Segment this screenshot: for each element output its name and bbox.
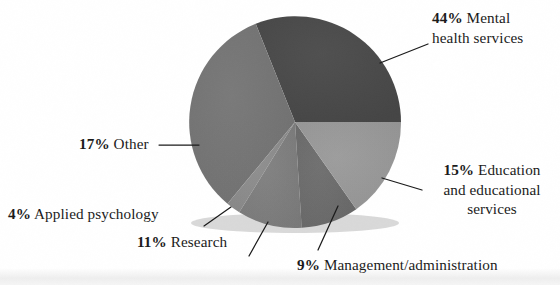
- pie-label-other: 17% Other: [79, 134, 149, 154]
- pie-label-management-text: Management/administration: [320, 256, 498, 273]
- pie-label-management-administration: 9% Management/administration: [297, 255, 498, 275]
- pie-label-other-percent: 17%: [79, 135, 110, 152]
- pie-label-research-text: Research: [167, 233, 227, 250]
- pie-label-research: 11% Research: [137, 232, 227, 252]
- pie-label-applied-text: Applied psychology: [31, 205, 159, 222]
- pie-label-education-percent: 15%: [443, 161, 474, 178]
- pie-label-applied-psychology: 4% Applied psychology: [8, 204, 159, 224]
- pie-label-education-line1: Education: [474, 161, 540, 178]
- pie-label-research-percent: 11%: [137, 233, 167, 250]
- pie-label-mental-percent: 44%: [432, 9, 463, 26]
- pie-label-education-and-educational-services: 15% Education and educational services: [424, 160, 560, 219]
- pie-chart-figure: 44% Mental health services 15% Education…: [0, 0, 560, 285]
- pie-label-education-line2: and educational: [443, 181, 540, 198]
- leader-line-mental: [380, 44, 428, 63]
- pie-label-mental-line2: health services: [432, 29, 523, 46]
- leader-line-education: [382, 178, 422, 190]
- pie-label-mental-line1: Mental: [463, 9, 511, 26]
- pie-label-other-text: Other: [110, 135, 149, 152]
- pie-label-management-percent: 9%: [297, 256, 320, 273]
- pie-label-applied-percent: 4%: [8, 205, 31, 222]
- pie-label-education-line3: services: [467, 200, 517, 217]
- pie-label-mental-health-services: 44% Mental health services: [432, 8, 523, 47]
- pie-rim-shading: [189, 122, 401, 228]
